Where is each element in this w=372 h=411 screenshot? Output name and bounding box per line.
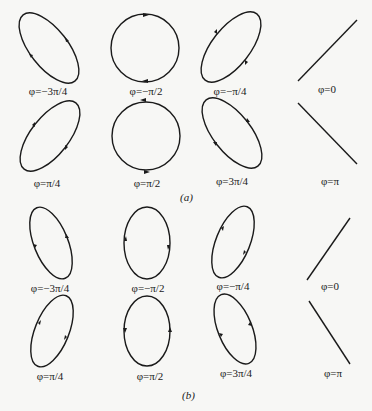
ellipse-b-pi2 bbox=[124, 296, 170, 366]
caption-b: (b) bbox=[182, 389, 195, 401]
ellipse-a-3pi4 bbox=[191, 88, 273, 178]
label-b-pi4: φ=π/4 bbox=[37, 370, 64, 382]
ellipse-b-neg3pi4 bbox=[21, 201, 81, 284]
label-b-pi: φ=π bbox=[324, 367, 342, 379]
label-b-neg3pi4: φ=−3π/4 bbox=[31, 282, 69, 294]
label-b-negpi2: φ=−π/2 bbox=[132, 282, 165, 294]
ellipse-a-neg3pi4 bbox=[8, 3, 90, 93]
label-b-zero: φ=0 bbox=[321, 280, 339, 292]
circle-a-negpi2 bbox=[111, 14, 179, 82]
caption-a: (a) bbox=[180, 191, 193, 203]
ellipse-b-pi4 bbox=[22, 289, 82, 372]
circle-a-pi2 bbox=[112, 102, 180, 170]
label-b-pi2: φ=π/2 bbox=[137, 370, 164, 382]
ellipse-a-pi4 bbox=[9, 91, 91, 181]
label-a-zero: φ=0 bbox=[318, 83, 336, 95]
line-a-pi bbox=[298, 103, 357, 164]
lissajous-figure bbox=[0, 0, 372, 411]
label-a-negpi2: φ=−π/2 bbox=[130, 85, 163, 97]
line-b-zero bbox=[307, 218, 350, 280]
label-a-neg3pi4: φ=−3π/4 bbox=[29, 85, 67, 97]
label-b-3pi4: φ=3π/4 bbox=[220, 367, 252, 379]
label-a-pi4: φ=π/4 bbox=[34, 177, 61, 189]
line-b-pi bbox=[309, 301, 350, 364]
label-b-negpi4: φ=−π/4 bbox=[217, 280, 250, 292]
label-a-pi2: φ=π/2 bbox=[134, 177, 161, 189]
ellipse-b-negpi4 bbox=[203, 200, 263, 283]
label-a-pi: φ=π bbox=[321, 175, 339, 187]
ellipse-b-3pi4 bbox=[205, 288, 264, 369]
label-a-3pi4: φ=3π/4 bbox=[216, 175, 248, 187]
ellipse-a-negpi4 bbox=[190, 2, 272, 92]
line-a-zero bbox=[298, 20, 357, 81]
label-a-negpi4: φ=−π/4 bbox=[214, 85, 247, 97]
ellipse-b-negpi2 bbox=[124, 207, 170, 279]
